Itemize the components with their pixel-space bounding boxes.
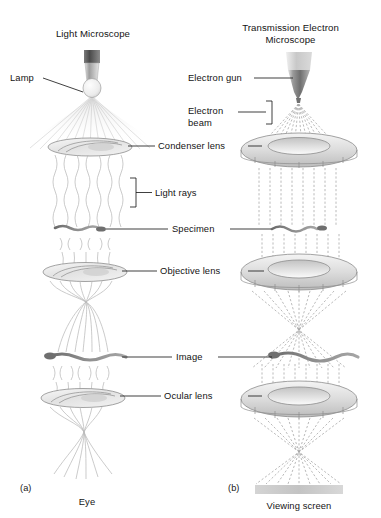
condenser-lens-light: [48, 138, 132, 156]
specimen-electron: [272, 225, 327, 231]
electron-gun-icon: [286, 52, 312, 103]
light-rays-bracket: [130, 178, 152, 207]
panel-a-title: Light Microscope: [28, 28, 158, 40]
electron-beam-label-line2: beam: [188, 117, 212, 128]
ocular-lens-electron: [241, 381, 357, 419]
panel-b-title-line2: Microscope: [213, 34, 368, 46]
specimen-light: [55, 226, 106, 232]
eye-label: Eye: [52, 496, 122, 507]
electron-beam-parallel: [259, 168, 336, 226]
electron-gun-label: Electron gun: [188, 72, 242, 83]
image-light: [44, 353, 126, 360]
electron-beam-to-screen: [254, 418, 344, 484]
light-rays-label: Light rays: [155, 187, 197, 198]
light-microscope-column: [18, 50, 166, 479]
light-rays-to-eye: [50, 407, 112, 479]
electron-beam-label-line1: Electron: [188, 105, 223, 116]
specimen-label: Specimen: [172, 223, 215, 234]
light-rays-mid: [60, 238, 110, 250]
objective-lens-electron: [241, 254, 357, 292]
panel-b-title-line1: Transmission Electron: [213, 22, 368, 34]
ocular-lens-light: [41, 389, 125, 408]
image-label: Image: [176, 351, 203, 362]
condenser-lens-label: Condenser lens: [158, 140, 225, 151]
panel-b-id: (b): [228, 483, 240, 494]
light-rays-upper: [53, 155, 123, 227]
ocular-lens-label: Ocular lens: [164, 390, 213, 401]
tem-column: [241, 52, 358, 494]
light-rays-lower: [53, 366, 109, 380]
viewing-screen-bar: [255, 485, 343, 494]
objective-lens-light: [43, 263, 127, 282]
condenser-lens-electron: [241, 133, 357, 168]
panel-a-id: (a): [20, 483, 32, 494]
figure-canvas: Light Microscope Transmission Electron M…: [0, 0, 381, 518]
light-rays-objective-to-image: [50, 281, 112, 352]
objective-lens-label: Objective lens: [160, 265, 220, 276]
viewing-screen-label: Viewing screen: [248, 500, 350, 511]
lamp-icon: [83, 50, 101, 98]
lamp-label: Lamp: [10, 72, 34, 83]
